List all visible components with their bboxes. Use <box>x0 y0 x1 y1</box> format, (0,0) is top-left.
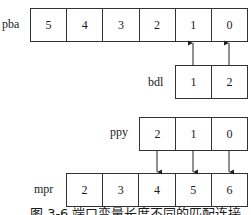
figure-caption: 图 3-6 端口变量长度不同的匹配连接 <box>30 203 242 215</box>
connection-arrows <box>0 0 251 215</box>
